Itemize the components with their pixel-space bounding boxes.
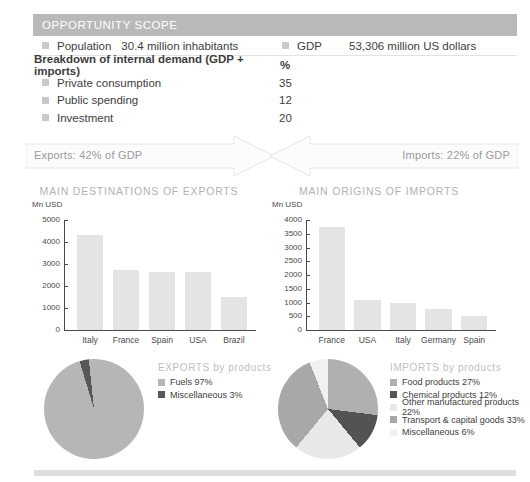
y-axis-tick-mark xyxy=(306,289,310,290)
x-axis-tick-label: Spain xyxy=(456,335,492,345)
breakdown-row-private-consumption: Private consumption 35 xyxy=(33,74,517,92)
y-axis-tick-label: 0 xyxy=(272,325,302,334)
breakdown-row-investment: Investment 20 xyxy=(33,109,517,127)
legend-label: Miscellaneous 6% xyxy=(402,427,475,437)
x-axis-tick-label: France xyxy=(108,335,144,345)
bar-usa xyxy=(354,300,380,330)
y-axis-tick-label: 3500 xyxy=(272,229,302,238)
y-axis-tick-label: 2000 xyxy=(272,270,302,279)
y-axis-tick-label: 0 xyxy=(30,325,60,334)
imports-plot-area: 05001000150020002500300035004000FranceUS… xyxy=(266,212,492,348)
y-axis-tick-mark xyxy=(306,275,310,276)
legend-swatch-icon xyxy=(158,391,165,398)
gdp-cell: GDP 53,306 million US dollars xyxy=(273,40,476,52)
breakdown-value: 35 xyxy=(279,77,292,89)
x-axis-tick-label: USA xyxy=(180,335,216,345)
legend-item: Miscellaneous 6% xyxy=(390,426,530,439)
x-axis-tick-label: Spain xyxy=(144,335,180,345)
y-axis-tick-mark xyxy=(306,248,310,249)
bar-france xyxy=(319,227,345,330)
imports-bar-chart-title: MAIN ORIGINS OF IMPORTS xyxy=(266,185,492,197)
y-axis-tick-label: 5000 xyxy=(30,215,60,224)
x-axis-tick-label: Italy xyxy=(385,335,421,345)
breakdown-row-public-spending: Public spending 12 xyxy=(33,92,517,110)
legend-item: Fuels 97% xyxy=(158,376,278,389)
legend-swatch-icon xyxy=(390,404,397,411)
population-label: Population xyxy=(57,40,111,52)
breakdown-value: 12 xyxy=(279,94,292,106)
exports-y-axis-unit: Mn USD xyxy=(32,200,62,209)
exports-bar-chart-title: MAIN DESTINATIONS OF EXPORTS xyxy=(26,185,252,197)
y-axis-tick-label: 2000 xyxy=(30,281,60,290)
breakdown-label: Private consumption xyxy=(57,77,161,89)
legend-item: Transport & capital goods 33% xyxy=(390,414,530,427)
legend-swatch-icon xyxy=(390,379,397,386)
trade-flow-arrows: Exports: 42% of GDP Imports: 22% of GDP xyxy=(26,136,518,176)
exports-pie-legend: EXPORTS by products Fuels 97% Miscellane… xyxy=(158,362,278,401)
x-axis-tick-label: Germany xyxy=(421,335,457,345)
imports-pie-title: IMPORTS by products xyxy=(390,362,530,373)
bar-spain xyxy=(149,272,176,330)
y-axis-tick-label: 3000 xyxy=(272,243,302,252)
exports-pie-title: EXPORTS by products xyxy=(158,362,278,373)
breakdown-label: Investment xyxy=(57,112,113,124)
x-axis-tick-label: Brazil xyxy=(216,335,252,345)
y-axis-tick-label: 2500 xyxy=(272,256,302,265)
y-axis-line xyxy=(64,220,65,331)
imports-y-axis-unit: Mn USD xyxy=(272,200,302,209)
population-value: 30.4 million inhabitants xyxy=(121,40,238,52)
exports-bar-chart: Mn USD 010002000300040005000ItalyFranceS… xyxy=(26,200,252,348)
legend-item: Miscellaneous 3% xyxy=(158,389,278,402)
bar-usa xyxy=(185,272,212,330)
y-axis-tick-mark xyxy=(64,264,68,265)
legend-label: Food products 27% xyxy=(402,377,480,387)
y-axis-tick-label: 4000 xyxy=(272,215,302,224)
footer-divider-bar xyxy=(34,470,516,476)
breakdown-header-row: Breakdown of internal demand (GDP + impo… xyxy=(33,56,517,74)
bar-italy xyxy=(390,303,416,331)
legend-swatch-icon xyxy=(390,416,397,423)
y-axis-tick-label: 1000 xyxy=(30,303,60,312)
y-axis-tick-mark xyxy=(306,220,310,221)
breakdown-name-cell: Public spending xyxy=(33,94,279,106)
legend-item: Other manufactured products 22% xyxy=(390,401,530,414)
legend-label: Transport & capital goods 33% xyxy=(402,415,525,425)
x-axis-line xyxy=(64,330,256,331)
exports-plot-area: 010002000300040005000ItalyFranceSpainUSA… xyxy=(26,212,252,348)
scope-header-title: OPPORTUNITY SCOPE xyxy=(33,14,517,36)
legend-swatch-icon xyxy=(158,379,165,386)
bullet-square-icon xyxy=(42,42,49,49)
y-axis-tick-label: 1000 xyxy=(272,298,302,307)
exports-share-label: Exports: 42% of GDP xyxy=(34,149,142,161)
imports-bar-chart: Mn USD 05001000150020002500300035004000F… xyxy=(266,200,492,348)
breakdown-unit: % xyxy=(279,59,290,71)
breakdown-name-cell: Investment xyxy=(33,112,279,124)
legend-item: Food products 27% xyxy=(390,376,530,389)
y-axis-tick-label: 4000 xyxy=(30,237,60,246)
bullet-square-icon xyxy=(42,114,49,121)
bullet-square-icon xyxy=(42,97,49,104)
legend-label: Miscellaneous 3% xyxy=(170,390,243,400)
bullet-square-icon xyxy=(282,42,289,49)
y-axis-tick-mark xyxy=(64,242,68,243)
bar-italy xyxy=(77,235,104,330)
gdp-value: 53,306 million US dollars xyxy=(349,40,476,52)
gdp-label: GDP xyxy=(297,40,339,52)
y-axis-tick-label: 500 xyxy=(272,311,302,320)
population-cell: Population 30.4 million inhabitants xyxy=(33,40,273,52)
y-axis-tick-mark xyxy=(64,286,68,287)
y-axis-tick-mark xyxy=(64,308,68,309)
y-axis-tick-label: 3000 xyxy=(30,259,60,268)
bar-brazil xyxy=(221,297,248,330)
legend-label: Fuels 97% xyxy=(170,377,213,387)
legend-swatch-icon xyxy=(390,391,397,398)
imports-pie-chart xyxy=(278,359,378,459)
x-axis-tick-label: Italy xyxy=(72,335,108,345)
breakdown-title-cell: Breakdown of internal demand (GDP + impo… xyxy=(33,53,279,77)
x-axis-tick-label: USA xyxy=(350,335,386,345)
y-axis-tick-mark xyxy=(306,234,310,235)
breakdown-title: Breakdown of internal demand (GDP + impo… xyxy=(33,53,279,77)
bullet-square-icon xyxy=(42,79,49,86)
y-axis-tick-mark xyxy=(306,303,310,304)
y-axis-tick-mark xyxy=(306,330,310,331)
